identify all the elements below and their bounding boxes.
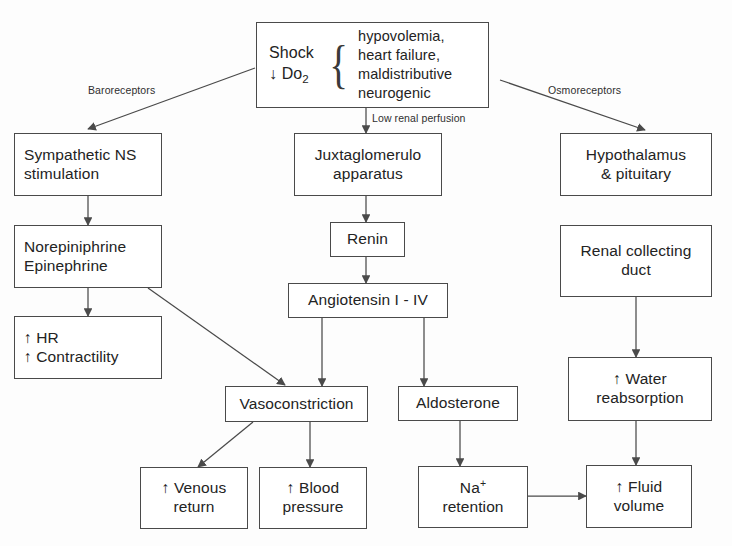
node-line: ↑ HR xyxy=(24,329,59,348)
edge-label-osmoreceptors: Osmoreceptors xyxy=(548,84,621,96)
node-juxtaglomerulo-apparatus[interactable]: Juxtaglomerulo apparatus xyxy=(294,133,442,196)
shock-cause-item: hypovolemia, xyxy=(358,27,445,46)
node-line: Sympathetic NS xyxy=(24,146,137,165)
node-hypothalamus-pituitary[interactable]: Hypothalamus & pituitary xyxy=(560,133,712,196)
node-hr-contractility[interactable]: ↑ HR ↑ Contractility xyxy=(14,316,162,379)
up-arrow-icon: ↑ xyxy=(287,479,295,496)
edge-label-low-renal-perfusion: Low renal perfusion xyxy=(372,112,466,124)
up-arrow-icon: ↑ xyxy=(613,370,621,387)
node-line: stimulation xyxy=(24,165,99,184)
shock-label: Shock xyxy=(269,42,314,64)
edge-catecholamines-to-vasoconstriction xyxy=(148,288,285,385)
edge-shock-to-sympathetic xyxy=(88,68,255,129)
node-venous-return[interactable]: ↑ Venous return xyxy=(140,467,248,529)
node-line: & pituitary xyxy=(601,165,671,184)
node-na-retention[interactable]: Na+ retention xyxy=(418,466,528,528)
node-line: apparatus xyxy=(333,165,403,184)
node-line: ↑ Water xyxy=(613,370,667,389)
node-catecholamines[interactable]: Norepiniphrine Epinephrine xyxy=(14,225,162,288)
node-blood-pressure[interactable]: ↑ Blood pressure xyxy=(259,467,367,529)
node-fluid-volume[interactable]: ↑ Fluid volume xyxy=(586,465,692,528)
node-line: volume xyxy=(614,497,665,516)
shock-cause-item: heart failure, xyxy=(358,46,440,65)
node-line: Renal collecting xyxy=(580,242,691,261)
shock-do2-label: ↓ Do2 xyxy=(269,63,309,88)
node-line: Angiotensin I - IV xyxy=(308,291,428,310)
node-line: Hypothalamus xyxy=(586,146,686,165)
node-renin[interactable]: Renin xyxy=(330,222,405,257)
edge-vasoconstriction-to-venous-return xyxy=(198,422,253,467)
node-angiotensin[interactable]: Angiotensin I - IV xyxy=(288,283,448,318)
node-line: ↑ Fluid xyxy=(616,478,662,497)
shock-causes-list: hypovolemia, heart failure, maldistribut… xyxy=(358,27,452,102)
node-line: Norepiniphrine xyxy=(24,238,126,257)
node-line: retention xyxy=(442,498,503,517)
node-line: Na+ xyxy=(460,477,486,498)
edge-label-baroreceptors: Baroreceptors xyxy=(88,84,155,96)
node-renal-collecting-duct[interactable]: Renal collecting duct xyxy=(560,225,712,297)
node-line: ↑ Contractility xyxy=(24,348,119,367)
node-line: Vasoconstriction xyxy=(239,395,353,414)
shock-cause-item: maldistributive xyxy=(358,65,452,84)
node-vasoconstriction[interactable]: Vasoconstriction xyxy=(225,386,368,422)
node-line: Epinephrine xyxy=(24,257,108,276)
node-line: Renin xyxy=(347,230,388,249)
up-arrow-icon: ↑ xyxy=(24,329,32,346)
node-line: ↑ Venous xyxy=(162,479,227,498)
node-line: pressure xyxy=(282,498,343,517)
node-water-reabsorption[interactable]: ↑ Water reabsorption xyxy=(568,357,712,421)
node-shock[interactable]: Shock ↓ Do2 { hypovolemia, heart failure… xyxy=(256,22,489,108)
shock-primary: Shock ↓ Do2 xyxy=(269,42,314,88)
node-aldosterone[interactable]: Aldosterone xyxy=(398,386,518,421)
up-arrow-icon: ↑ xyxy=(616,478,624,495)
up-arrow-icon: ↑ xyxy=(24,348,32,365)
node-line: duct xyxy=(621,261,651,280)
up-arrow-icon: ↑ xyxy=(162,479,170,496)
node-sympathetic-ns-stimulation[interactable]: Sympathetic NS stimulation xyxy=(14,133,162,196)
node-line: Aldosterone xyxy=(416,394,500,413)
node-line: reabsorption xyxy=(596,389,683,408)
node-line: return xyxy=(173,498,214,517)
shock-cause-item: neurogenic xyxy=(358,84,431,103)
flowchart-canvas: Shock ↓ Do2 { hypovolemia, heart failure… xyxy=(0,0,732,546)
node-line: ↑ Blood xyxy=(287,479,339,498)
node-line: Juxtaglomerulo xyxy=(315,146,422,165)
